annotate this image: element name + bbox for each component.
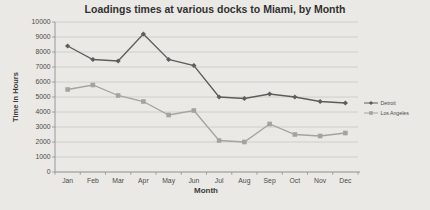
x-tick-label: Oct bbox=[290, 177, 301, 184]
data-point-marker bbox=[65, 43, 70, 48]
data-point-marker bbox=[65, 87, 70, 92]
x-tick-label: Aug bbox=[238, 177, 250, 185]
series-line bbox=[68, 85, 346, 142]
legend-marker bbox=[369, 111, 373, 115]
legend-item-detroit: Detroit bbox=[364, 100, 396, 106]
x-axis-title: Month bbox=[194, 186, 218, 195]
axes-layer: 0100020003000400050006000700080009000100… bbox=[32, 18, 360, 185]
x-tick-label: Mar bbox=[112, 177, 124, 184]
x-tick-label: Jul bbox=[215, 177, 224, 184]
x-tick-label: Jan bbox=[62, 177, 73, 184]
y-tick-label: 5000 bbox=[35, 93, 50, 100]
data-point-marker bbox=[293, 132, 298, 137]
legend-item-los-angeles: Los Angeles bbox=[364, 110, 409, 116]
y-tick-label: 1000 bbox=[35, 153, 50, 160]
y-tick-label: 3000 bbox=[35, 123, 50, 130]
series-line bbox=[68, 34, 346, 103]
data-point-marker bbox=[242, 140, 247, 145]
x-tick-label: Feb bbox=[87, 177, 99, 184]
data-point-marker bbox=[116, 93, 121, 98]
data-point-marker bbox=[343, 100, 348, 105]
legend-label: Los Angeles bbox=[381, 110, 410, 116]
data-point-marker bbox=[141, 99, 146, 104]
series-los-angeles bbox=[65, 83, 347, 145]
y-tick-label: 7000 bbox=[35, 63, 50, 70]
y-tick-label: 6000 bbox=[35, 78, 50, 85]
y-tick-label: 8000 bbox=[35, 48, 50, 55]
legend-marker bbox=[369, 101, 373, 105]
data-point-marker bbox=[90, 57, 95, 62]
x-tick-label: Sep bbox=[264, 177, 276, 185]
data-point-marker bbox=[318, 99, 323, 104]
y-tick-label: 10000 bbox=[32, 18, 51, 25]
legend: DetroitLos Angeles bbox=[364, 100, 409, 116]
y-tick-label: 9000 bbox=[35, 33, 50, 40]
x-tick-label: May bbox=[162, 177, 175, 185]
y-tick-label: 4000 bbox=[35, 108, 50, 115]
data-point-marker bbox=[91, 83, 96, 88]
data-point-marker bbox=[292, 94, 297, 99]
chart-title: Loadings times at various docks to Miami… bbox=[85, 3, 346, 15]
data-point-marker bbox=[318, 134, 323, 139]
x-tick-label: Dec bbox=[339, 177, 352, 184]
y-axis-title: Time in Hours bbox=[11, 72, 20, 122]
data-point-marker bbox=[192, 108, 197, 113]
y-tick-label: 2000 bbox=[35, 138, 50, 145]
x-tick-label: Nov bbox=[314, 177, 327, 184]
x-tick-label: Apr bbox=[138, 177, 149, 185]
scanned-chart-page: Loadings times at various docks to Miami… bbox=[0, 0, 430, 210]
y-tick-label: 0 bbox=[47, 168, 51, 175]
data-point-marker bbox=[267, 91, 272, 96]
legend-label: Detroit bbox=[381, 100, 397, 106]
x-tick-label: Jun bbox=[188, 177, 199, 184]
series-detroit bbox=[65, 31, 348, 105]
gridlines-layer bbox=[55, 22, 358, 157]
data-point-marker bbox=[267, 122, 272, 127]
line-chart: Loadings times at various docks to Miami… bbox=[0, 0, 430, 210]
data-point-marker bbox=[343, 131, 348, 136]
data-point-marker bbox=[166, 113, 171, 118]
data-point-marker bbox=[217, 138, 222, 143]
